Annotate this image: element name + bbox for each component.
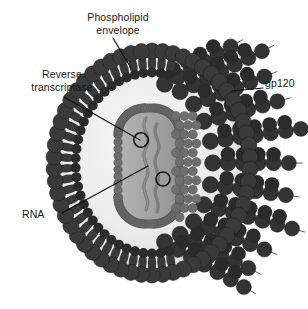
capsid-bead: [183, 176, 192, 185]
lipid-head-inner: [76, 191, 86, 201]
capsid-bead: [180, 167, 189, 176]
capsid-bead: [175, 121, 184, 130]
capsid-bead: [171, 185, 180, 194]
capsid-bead: [175, 213, 184, 222]
gp120-bead: [236, 280, 251, 295]
capsid-bead: [188, 148, 197, 157]
capsid-bead: [192, 121, 201, 130]
gp120-bead: [204, 212, 219, 227]
capsid-bead: [180, 203, 189, 212]
capsid-bead: [192, 139, 201, 148]
label-gp120: gp120: [265, 77, 307, 90]
lipid-head-inner: [130, 70, 140, 80]
capsid-bead: [183, 157, 192, 166]
lipid-head-inner: [138, 68, 148, 78]
gp120-bead: [202, 176, 218, 192]
capsid-bead: [183, 139, 192, 148]
gp120-bead: [190, 226, 205, 241]
lipid-head-inner: [147, 68, 157, 78]
lipid-head-inner: [147, 249, 157, 259]
capsid-bead: [192, 194, 201, 203]
gp120-bead: [281, 155, 296, 170]
gp120-bead: [175, 235, 190, 250]
lipid-head-inner: [76, 125, 86, 135]
gp120-bead: [246, 229, 261, 244]
gp120-bead: [205, 155, 221, 171]
gp120-bead: [237, 43, 252, 58]
gp120-bead: [241, 260, 256, 275]
capsid-bead: [188, 185, 197, 194]
capsid-bead: [180, 130, 189, 139]
lipid-head-outer: [133, 44, 149, 60]
capsid-bead: [175, 194, 184, 203]
gp120-bead: [240, 67, 255, 82]
lipid-head-inner: [164, 246, 174, 256]
capsid-bead: [183, 121, 192, 130]
capsid-bead: [171, 167, 180, 176]
capsid-bead: [171, 111, 180, 120]
capsid-bead: [192, 176, 201, 185]
lipid-head-inner: [71, 163, 81, 173]
lipid-head-inner: [73, 181, 83, 191]
gp120-bead: [202, 133, 218, 149]
capsid-bead: [188, 111, 197, 120]
gp120-bead: [183, 70, 198, 85]
capsid-bead: [180, 148, 189, 157]
gp120-bead: [221, 147, 236, 162]
gp120-bead: [254, 44, 269, 59]
capsid-bead: [180, 111, 189, 120]
capsid-bead: [175, 157, 184, 166]
lipid-head-inner: [71, 153, 81, 163]
capsid-bead: [180, 185, 189, 194]
gp120-bead: [224, 50, 239, 65]
gp120-bead: [277, 115, 292, 130]
gp120-bead: [206, 39, 221, 54]
lipid-head-inner: [71, 144, 81, 154]
capsid-bead: [175, 139, 184, 148]
capsid-bead: [188, 130, 197, 139]
gp120-bead: [228, 265, 243, 280]
gp120-bead: [214, 193, 229, 208]
capsid-bead: [171, 203, 180, 212]
capsid-bead: [188, 203, 197, 212]
virion-illustration: [0, 0, 308, 309]
gp120-bead: [231, 246, 246, 261]
capsid-bead: [175, 176, 184, 185]
gp120-bead: [219, 171, 234, 186]
gp120-bead: [209, 102, 224, 117]
capsid-bead: [171, 130, 180, 139]
capsid-bead: [188, 167, 197, 176]
gp120-bead: [185, 96, 201, 112]
gp120-bead: [217, 123, 232, 138]
gp120-bead: [272, 209, 287, 224]
gp120-bead: [278, 187, 293, 202]
label-reverse-transcriptase: Reverse transcriptase: [8, 68, 116, 93]
capsid-bead: [183, 194, 192, 203]
gp120-bead: [197, 83, 212, 98]
label-rna: RNA: [22, 208, 66, 221]
lipid-head-inner: [156, 248, 166, 258]
gp120-bead: [253, 90, 268, 105]
gp120-bead: [293, 121, 308, 136]
gp120-bead: [258, 205, 273, 220]
gp120-bead: [270, 94, 285, 109]
lipid-head-inner: [73, 135, 83, 145]
lipid-head-inner: [164, 70, 174, 80]
label-phospholipid-envelope: Phospholipid envelope: [64, 11, 172, 36]
gp120-bead: [265, 177, 280, 192]
lipid-head-inner: [156, 68, 166, 78]
capsid-bead: [171, 148, 180, 157]
gp120-bead: [266, 147, 281, 162]
lipid-head-inner: [71, 172, 81, 182]
gp120-bead: [214, 257, 229, 272]
lipid-head-inner: [138, 248, 148, 258]
capsid-bead: [114, 138, 123, 147]
hiv-virion-figure: Phospholipid envelope Reverse transcript…: [0, 0, 308, 309]
gp120-bead: [257, 242, 272, 257]
capsid-bead: [192, 157, 201, 166]
gp120-bead: [262, 117, 277, 132]
gp120-bead: [285, 221, 300, 236]
